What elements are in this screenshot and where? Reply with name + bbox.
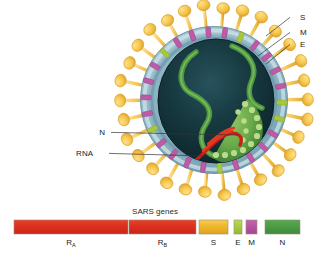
gene-segment-RA [14,220,128,234]
sars-virion-illustration: SMENRNA SARS genes RARBSEMN [0,0,322,256]
gene-segment-N [265,220,300,234]
gene-label-RA: RA [66,238,76,248]
gene-label-N: N [280,238,286,247]
callout-label-M: M [300,28,307,37]
m-protein [141,95,152,100]
callout-label-E: E [300,40,305,49]
callout-label-RNA: RNA [76,149,94,158]
gene-label-RB: RB [158,238,168,248]
gene-label-S: S [211,238,216,247]
figure-canvas: SMENRNA SARS genes RARBSEMN [0,0,322,256]
e-protein [277,100,288,105]
callout-label-N: N [99,128,105,137]
gene-segment-M [246,220,257,234]
callout-label-S: S [300,13,305,22]
gene-label-E: E [235,238,240,247]
gene-map: RARBSEMN [14,220,300,248]
gene-segment-S [199,220,228,234]
m-protein [206,27,212,38]
gene-label-M: M [248,238,255,247]
gene-map-title: SARS genes [132,207,178,216]
e-protein [217,162,223,173]
gene-segment-RB [129,220,196,234]
gene-segment-E [234,220,242,234]
